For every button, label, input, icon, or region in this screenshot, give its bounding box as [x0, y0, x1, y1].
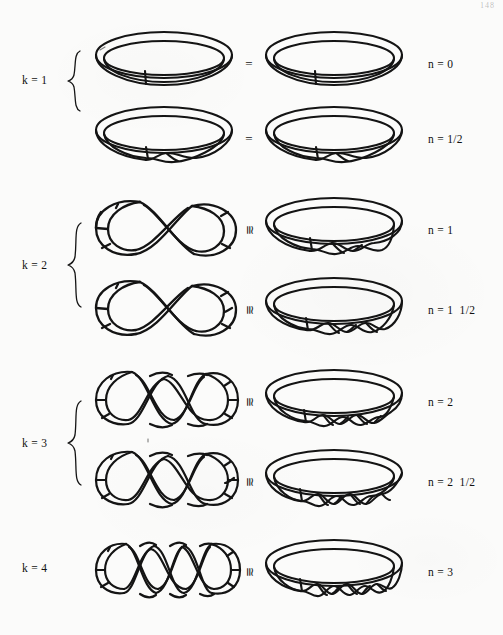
ring-figure-right — [258, 188, 418, 278]
band-figure-left — [88, 530, 248, 620]
band-figure-left — [88, 97, 248, 187]
relation-symbol: ≅ — [242, 217, 257, 243]
figure-row: = n = 1/2 — [0, 97, 503, 187]
ring-figure-right — [258, 360, 418, 450]
n-label: n = 0 — [428, 58, 453, 70]
relation-symbol: ≅ — [242, 559, 257, 585]
band-figure-left — [88, 268, 248, 358]
n-label: n = 1 1/2 — [428, 304, 475, 316]
figure-row: ≅ n = 1 1/2 — [0, 268, 503, 358]
figure-row: ≅ n = 2 — [0, 360, 503, 450]
figure-row: ≅ n = 2 1/2 — [0, 440, 503, 530]
figure-page: 148 k = 1 k = 2 k = 3 k = 4 — [0, 0, 503, 635]
page-number: 148 — [480, 1, 495, 10]
ring-figure-right — [258, 440, 418, 530]
n-label: n = 1 — [428, 224, 453, 236]
band-figure-left — [88, 440, 248, 530]
relation-symbol: ≅ — [242, 297, 257, 323]
band-figure-left — [88, 188, 248, 278]
ring-figure-right — [258, 530, 418, 620]
n-label: n = 1/2 — [428, 133, 463, 145]
ring-figure-right — [258, 268, 418, 358]
relation-symbol: ≅ — [242, 389, 257, 415]
n-label: n = 3 — [428, 566, 453, 578]
ring-figure-right — [258, 97, 418, 187]
figure-row: ≅ n = 3 — [0, 530, 503, 620]
figure-row: ≅ n = 1 — [0, 188, 503, 278]
n-label: n = 2 1/2 — [428, 476, 475, 488]
relation-symbol: ≅ — [242, 469, 257, 495]
band-figure-left — [88, 360, 248, 450]
n-label: n = 2 — [428, 396, 453, 408]
